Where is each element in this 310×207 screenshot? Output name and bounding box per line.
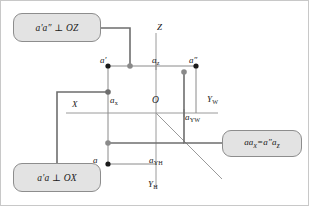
point-label-a-z: az (152, 56, 159, 65)
figure-container: a'a″ ⊥ OZ a'a ⊥ OX aax=a″az Z X YW YH O … (0, 0, 310, 207)
origin-label: O (152, 96, 159, 106)
point-label-a-double-prime: a″ (189, 56, 197, 65)
point-label-a-yh: aYH (149, 156, 162, 165)
equation-text: aax=a″az (244, 137, 280, 150)
node-bottom-eq-dot (105, 140, 111, 146)
node-right-app-dot (181, 69, 187, 75)
node-top-az-dot (127, 63, 133, 69)
point-label-a-x: ax (110, 96, 118, 105)
connector-eq-callout (184, 72, 222, 143)
axis-label-x: X (72, 100, 78, 109)
point-label-a-yw: aYW (185, 113, 200, 122)
point-label-a-prime: a′ (100, 56, 106, 65)
point-a (105, 161, 110, 166)
callout-equation-aax-equals-appaz[interactable]: aax=a″az (222, 130, 302, 157)
callout-a-prime-a-perp-ox[interactable]: a'a ⊥ OX (13, 163, 101, 192)
connector-ax-callout (57, 92, 108, 163)
axis-label-yh: YH (148, 180, 157, 189)
axis-label-z: Z (157, 23, 162, 32)
node-left-ax-dot (105, 89, 111, 95)
point-label-a: a (93, 156, 98, 165)
callout-connectors (57, 28, 222, 163)
axis-bisector-45 (156, 113, 222, 179)
axis-label-yw: YW (207, 95, 218, 104)
callout-a-prime-a-double-prime-perp-oz[interactable]: a'a″ ⊥ OZ (13, 13, 101, 42)
